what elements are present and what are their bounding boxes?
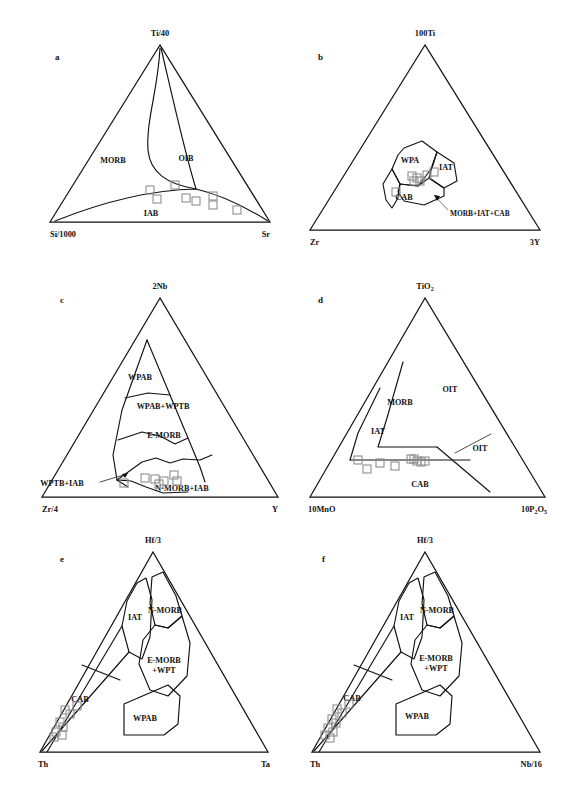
apex-label-top-f: Hf/3 — [417, 536, 433, 545]
field-label-oib-a: OIB — [178, 154, 194, 163]
field-label-emorb-f: E-MORB — [419, 654, 453, 663]
field-label-wpab-e: WPAB — [133, 714, 157, 723]
field-label-morb-a: MORB — [100, 156, 126, 165]
panel-letter-b: b — [318, 52, 323, 62]
field-boundary-wpab-left-c — [113, 340, 147, 487]
field-label-cab-b: CAB — [395, 193, 413, 202]
data-point — [407, 455, 415, 463]
field-boundary-cab-outer-f — [319, 626, 394, 752]
data-point — [153, 195, 161, 203]
data-point — [170, 471, 178, 479]
field-divider-emorb-lower-c — [117, 455, 212, 480]
field-label-iat-f: IAT — [400, 613, 414, 622]
data-points-d — [354, 455, 429, 473]
panel-letter-a: a — [55, 52, 60, 62]
triangle-b — [310, 45, 540, 230]
apex-label-right-a: Sr — [262, 230, 271, 239]
panel-c: c 2Nb Zr/4 Y WPAB WPAB+WPTB E-MORB WPTB+… — [40, 282, 278, 514]
apex-label-top-e: Hf/3 — [145, 536, 161, 545]
triangle-d — [310, 298, 545, 497]
figure-container: a Ti/40 Si/1000 Sr MORB OIB IAB b — [0, 0, 575, 789]
field-divider-cab-f — [354, 665, 392, 680]
panel-d: d TiO2 10MnO 10P2O5 MORB OIT IAT OIT CAB — [308, 282, 547, 515]
apex-label-top-b: 100Ti — [415, 29, 436, 38]
field-boundary-morb-oib-a — [148, 48, 196, 189]
apex-label-left-e: Th — [38, 760, 49, 769]
panel-letter-f: f — [322, 554, 326, 564]
field-label-morb-d: MORB — [387, 398, 413, 407]
apex-label-right-b: 3Y — [530, 238, 540, 247]
apex-label-right-d: 10P2O5 — [521, 505, 547, 515]
apex-label-top-a: Ti/40 — [151, 29, 169, 38]
field-label-nmorb-e: N-MORB — [148, 606, 183, 615]
field-label-nmorb-f: N-MORB — [420, 606, 455, 615]
data-point — [391, 462, 399, 470]
field-label-emorb-c: E-MORB — [147, 431, 181, 440]
field-label-cab-d: CAB — [411, 480, 429, 489]
field-label-iat-b: IAT — [439, 163, 453, 172]
data-point — [410, 177, 418, 185]
field-label-morb-iat-cab-b: MORB+IAT+CAB — [450, 209, 510, 218]
field-label-emorb-e: E-MORB — [147, 656, 181, 665]
apex-label-right-e: Ta — [261, 760, 271, 769]
panel-letter-d: d — [318, 295, 323, 305]
apex-label-left-a: Si/1000 — [50, 230, 76, 239]
field-divider-iat-morb-d — [350, 388, 380, 460]
apex-label-left-f: Th — [310, 760, 321, 769]
data-point — [209, 201, 217, 209]
field-boundary-oib-right-a — [161, 48, 196, 189]
data-point — [192, 197, 200, 205]
panel-e: e Hf/3 Th Ta IAT N-MORB E-MORB +WPT CAB … — [38, 536, 271, 769]
triangle-f — [312, 552, 540, 752]
field-label-wpt-e: +WPT — [152, 666, 176, 675]
field-label-oit-upper-d: OIT — [442, 385, 458, 394]
field-label-wpab-f: WPAB — [405, 712, 429, 721]
data-point — [182, 194, 190, 202]
field-label-oit-lower-d: OIT — [472, 444, 488, 453]
data-point — [141, 474, 149, 482]
field-boundary-iab-a — [55, 189, 268, 221]
data-point — [233, 206, 241, 214]
apex-label-top-c: 2Nb — [153, 282, 168, 291]
data-points-a — [146, 181, 241, 214]
panel-letter-e: e — [60, 554, 64, 564]
ternary-diagram-figure: a Ti/40 Si/1000 Sr MORB OIB IAB b — [0, 0, 575, 789]
apex-label-top-d: TiO2 — [416, 282, 433, 292]
apex-label-left-d: 10MnO — [308, 505, 336, 514]
triangle-c — [42, 298, 278, 497]
apex-label-right-f: Nb/16 — [521, 760, 542, 769]
field-label-wpab-c: WPAB — [128, 373, 152, 382]
panel-b: b 100Ti Zr 3Y WPA IAT CAB MORB+IAT+CAB — [310, 29, 540, 247]
data-point — [413, 174, 421, 182]
panel-letter-c: c — [60, 295, 64, 305]
field-label-cab-f: CAB — [343, 694, 361, 703]
field-divider-oit-right-d — [437, 447, 490, 492]
field-divider-cab-e — [82, 665, 120, 680]
apex-label-left-c: Zr/4 — [42, 505, 59, 514]
field-label-iat-e: IAT — [128, 613, 142, 622]
panel-f: f Hf/3 Th Nb/16 IAT N-MORB E-MORB +WPT C… — [310, 536, 542, 769]
panel-a: a Ti/40 Si/1000 Sr MORB OIB IAB — [50, 29, 270, 239]
field-label-iat-d: IAT — [371, 427, 385, 436]
apex-label-right-c: Y — [272, 505, 278, 514]
apex-label-left-b: Zr — [310, 238, 320, 247]
field-label-cab-e: CAB — [71, 695, 89, 704]
data-point — [363, 465, 371, 473]
data-point — [408, 172, 416, 180]
field-label-wptb-iab-c: WPTB+IAB — [40, 479, 84, 488]
field-label-wpab-wptb-c: WPAB+WPTB — [137, 402, 190, 411]
field-label-iab-a: IAB — [144, 209, 159, 218]
field-divider-wpab-wptb-c — [125, 393, 170, 398]
field-label-wpt-f: +WPT — [424, 664, 448, 673]
field-label-wpa-b: WPA — [401, 156, 420, 165]
